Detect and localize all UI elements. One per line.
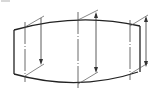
arrowhead-down-icon [144,61,148,67]
dimension-middle [94,12,98,73]
top-curve [14,20,140,30]
leader-bottom-left [25,64,44,76]
dimension-right [144,16,148,67]
leader-lines [25,10,148,84]
dimension-left [39,18,43,65]
barrel-drawing [0,0,159,97]
arrowhead-up-icon [94,12,98,18]
barrel-outline [14,20,140,83]
arrowhead-down-icon [39,59,43,65]
bottom-curve [14,72,138,83]
